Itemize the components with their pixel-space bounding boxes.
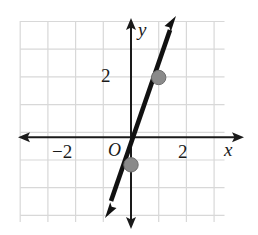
x-tick-label-2: 2 xyxy=(178,142,188,161)
graph-figure: y x 2 2 −2 O xyxy=(0,0,258,235)
data-point-0-neg1 xyxy=(124,158,138,172)
y-tick-label-2: 2 xyxy=(101,66,111,85)
x-tick-label-negative-2: −2 xyxy=(52,142,72,161)
origin-label: O xyxy=(108,141,121,159)
x-axis-label: x xyxy=(224,140,232,159)
coordinate-plane xyxy=(0,0,258,235)
data-point-1-2 xyxy=(152,70,166,84)
line-arrow-up-right xyxy=(165,16,177,32)
grid-lines xyxy=(20,21,224,222)
y-axis-label: y xyxy=(138,20,146,39)
